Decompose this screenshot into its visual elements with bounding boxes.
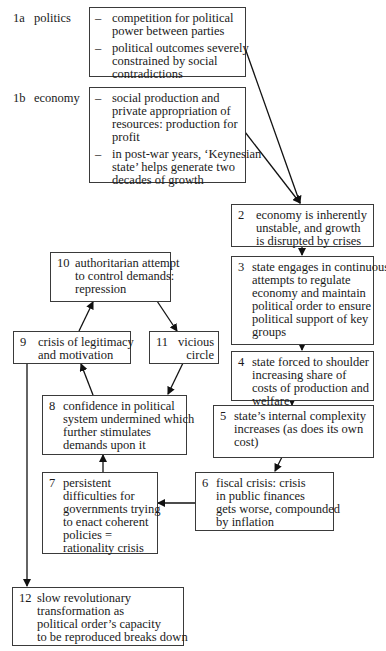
node-6-number: 6 — [202, 477, 208, 490]
input-1a-id: 1a — [13, 11, 25, 25]
arrow-5-to-6 — [275, 457, 282, 471]
node-8-text: confidence in political system undermine… — [63, 400, 182, 452]
arrow-1b-to-2 — [245, 132, 300, 203]
input-1b-name: economy — [34, 92, 80, 105]
arrow-9-to-10 — [79, 302, 93, 331]
bullet-1b-2: in post-war years, ‘Keynesian state’ hel… — [95, 148, 242, 187]
node-3-number: 3 — [238, 261, 244, 274]
node-10-number: 10 — [57, 257, 70, 270]
bullet-1b-1: social production and private appropriat… — [95, 92, 242, 144]
node-9-number: 9 — [20, 336, 26, 349]
node-9-legitimacy-crisis: 9 crisis of legitimacy and motivation — [13, 331, 131, 364]
node-11-text: vicious circle — [178, 336, 214, 362]
node-2-economic-instability: 2 economy is inherently unstable, and gr… — [231, 204, 374, 247]
box-1b-economy: social production and private appropriat… — [89, 87, 246, 183]
node-12-text: slow revolutionary transformation as pol… — [37, 592, 179, 644]
node-11-vicious-circle: 11 vicious circle — [149, 331, 219, 364]
input-1b-id: 1b — [13, 91, 26, 105]
node-3-state-regulation: 3 state engages in continuous attempts t… — [231, 256, 374, 345]
node-6-fiscal-crisis: 6 fiscal crisis: crisis in public financ… — [195, 472, 334, 531]
node-4-state-costs: 4 state forced to shoulder increasing sh… — [231, 351, 374, 401]
node-10-text: authoritarian attempt to control demands… — [75, 257, 166, 296]
node-7-text: persistent difficulties for governments … — [63, 477, 153, 555]
input-1a-name: politics — [34, 12, 71, 25]
node-12-number: 12 — [19, 592, 32, 605]
box-1a-politics: competition for political power between … — [89, 7, 246, 77]
node-2-number: 2 — [238, 209, 244, 222]
node-6-text: fiscal crisis: crisis in public finances… — [216, 477, 329, 529]
node-11-number: 11 — [156, 336, 168, 349]
input-1b-label: 1b economy — [13, 92, 26, 105]
node-4-number: 4 — [238, 356, 244, 369]
node-7-number: 7 — [49, 477, 55, 490]
node-4-text: state forced to shoulder increasing shar… — [252, 356, 369, 408]
arrow-10-to-11 — [157, 301, 177, 331]
bullet-1a-1: competition for political power between … — [95, 12, 242, 38]
node-12-revolutionary-transformation: 12 slow revolutionary transformation as … — [12, 587, 184, 646]
node-8-confidence-undermined: 8 confidence in political system undermi… — [42, 395, 187, 455]
arrow-11-to-8 — [168, 363, 183, 394]
node-9-text: crisis of legitimacy and motivation — [38, 336, 126, 362]
node-5-text: state’s internal complexity increases (a… — [234, 410, 369, 449]
node-5-state-complexity: 5 state’s internal complexity increases … — [213, 405, 374, 458]
node-7-rationality-crisis: 7 persistent difficulties for government… — [42, 472, 158, 554]
arrow-8-to-9 — [81, 364, 93, 395]
bullet-1a-2: political outcomes severely constrained … — [95, 42, 242, 81]
node-3-text: state engages in continuous attempts to … — [252, 261, 369, 339]
input-1a-label: 1a politics — [13, 12, 25, 25]
node-8-number: 8 — [49, 400, 55, 413]
node-2-text: economy is inherently unstable, and grow… — [256, 209, 369, 248]
node-10-authoritarian-repression: 10 authoritarian attempt to control dema… — [50, 252, 171, 302]
arrow-1a-to-2 — [245, 48, 300, 203]
node-5-number: 5 — [220, 410, 226, 423]
